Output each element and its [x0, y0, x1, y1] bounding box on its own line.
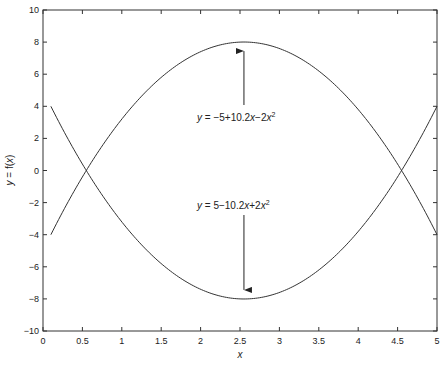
x-axis-label: x: [237, 349, 244, 360]
y-tick-label: −2: [29, 198, 39, 208]
y-tick-label: 0: [34, 166, 39, 176]
x-tick-label: 2.5: [234, 336, 247, 346]
x-tick-label: 1: [119, 336, 124, 346]
annotation-max-equation: y = −5+10.2x−2x2: [196, 111, 276, 123]
x-tick-label: 3.5: [313, 336, 326, 346]
x-tick-label: 5: [434, 336, 439, 346]
y-axis-label: y = f(x): [4, 155, 15, 187]
y-tick-label: 10: [29, 5, 39, 15]
y-tick-label: 6: [34, 69, 39, 79]
y-tick-label: −4: [29, 230, 39, 240]
x-tick-label: 2: [198, 336, 203, 346]
annotation-min-equation: y = 5−10.2x+2x2: [196, 199, 270, 211]
y-tick-label: 2: [34, 133, 39, 143]
plot-frame: [43, 10, 437, 331]
x-axis-ticks: 00.511.522.533.544.55: [40, 10, 439, 346]
y-tick-label: 4: [34, 101, 39, 111]
y-tick-label: −6: [29, 262, 39, 272]
x-tick-label: 1.5: [155, 336, 168, 346]
x-tick-label: 4.5: [391, 336, 404, 346]
y-tick-label: −10: [24, 326, 39, 336]
y-tick-label: 8: [34, 37, 39, 47]
x-tick-label: 4: [356, 336, 361, 346]
x-tick-label: 0: [40, 336, 45, 346]
line-chart: 00.511.522.533.544.55 1086420−2−4−6−8−10…: [0, 0, 446, 367]
y-tick-label: −8: [29, 294, 39, 304]
x-tick-label: 3: [277, 336, 282, 346]
x-tick-label: 0.5: [76, 336, 89, 346]
annotations: y = −5+10.2x−2x2y = 5−10.2x+2x2: [196, 51, 276, 290]
